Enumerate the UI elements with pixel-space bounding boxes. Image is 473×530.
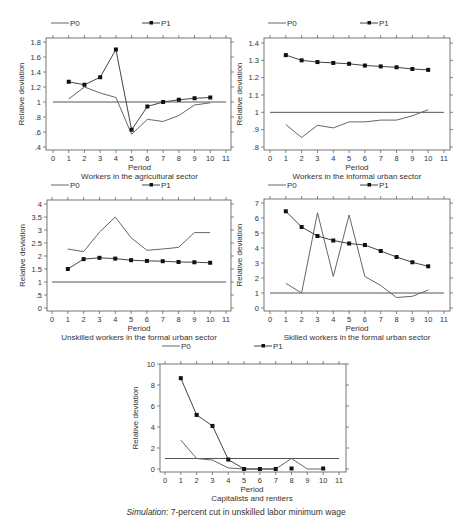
x-tick-label: 3 [210, 476, 214, 485]
plot-frame [160, 364, 346, 472]
legend: P0P1 [51, 19, 171, 28]
y-tick-label: 2 [151, 444, 155, 453]
data-point [179, 376, 183, 380]
x-tick-label: 2 [300, 154, 304, 163]
y-axis-title: Relative deviation [17, 62, 26, 125]
data-point [145, 259, 149, 263]
x-tick-label: 5 [130, 154, 134, 163]
x-tick-label: 11 [440, 315, 448, 324]
data-point [192, 260, 196, 264]
x-tick-label: 1 [67, 154, 71, 163]
figure-caption: Simulation: 7-percent cut in unskilled l… [126, 507, 345, 517]
y-axis-title: Relative deviation [235, 62, 244, 125]
y-tick-label: 1.2 [249, 73, 259, 82]
y-tick-label: .8 [253, 143, 259, 152]
plot-frame [264, 38, 450, 150]
chart-subtitle: Workers in the agricultural sector [81, 172, 198, 181]
data-point [258, 467, 262, 471]
y-tick-label: 3.5 [32, 213, 42, 222]
x-tick-label: 6 [363, 154, 367, 163]
y-tick-label: 1.1 [249, 91, 259, 100]
data-point [161, 100, 165, 104]
y-tick-label: 5 [255, 229, 259, 238]
y-tick-label: .5 [36, 291, 42, 300]
x-tick-label: 3 [315, 154, 319, 163]
x-tick-label: 4 [331, 154, 335, 163]
plot-frame [264, 199, 450, 311]
caption-italic: Simulation [126, 507, 166, 517]
data-point [208, 261, 212, 265]
legend-p0-label: P0 [287, 19, 297, 28]
x-tick-label: 7 [161, 154, 165, 163]
chart-subtitle: Skilled workers in the formal urban sect… [284, 333, 431, 342]
legend-p1-marker-icon [150, 183, 154, 187]
data-point [315, 60, 319, 64]
legend-p1-marker-icon [368, 21, 372, 25]
series-p1 [67, 48, 213, 132]
x-axis: 01234567891011 [51, 35, 230, 163]
series-p0 [181, 440, 323, 469]
x-tick-label: 6 [145, 154, 149, 163]
series-line [68, 217, 210, 252]
y-tick-label: 1.2 [31, 83, 41, 92]
y-tick-label: 8 [151, 381, 155, 390]
chart-subtitle: Capitalists and rentiers [211, 494, 292, 503]
data-point [379, 249, 383, 253]
data-point [426, 68, 430, 72]
x-tick-label: 9 [192, 154, 196, 163]
x-tick-label: 10 [424, 315, 432, 324]
y-tick-label: 6 [151, 402, 155, 411]
y-tick-label: 1.4 [249, 39, 259, 48]
x-tick-label: 7 [161, 315, 165, 324]
x-tick-label: 8 [394, 315, 398, 324]
data-point [395, 255, 399, 259]
series-line [286, 55, 428, 70]
x-tick-label: 11 [222, 154, 230, 163]
y-tick-label: 0 [151, 465, 155, 474]
x-tick-label: 4 [113, 315, 117, 324]
x-tick-label: 7 [274, 476, 278, 485]
x-tick-label: 10 [319, 476, 327, 485]
data-point [284, 209, 288, 213]
series-line [69, 50, 211, 130]
y-tick-label: 10 [147, 360, 155, 369]
y-tick-label: 2 [38, 252, 42, 261]
chart-skilled-formal: P0P101234567891011PeriodSkilled workers … [235, 181, 453, 342]
legend: P0P1 [268, 19, 389, 28]
x-tick-label: 7 [379, 154, 383, 163]
x-tick-label: 8 [289, 476, 293, 485]
x-tick-label: 0 [268, 315, 272, 324]
series-line [181, 378, 276, 469]
x-tick-label: 10 [424, 154, 432, 163]
x-axis-title: Period [128, 163, 151, 172]
data-point [347, 242, 351, 246]
y-tick-label: 1.4 [31, 68, 41, 77]
y-tick-label: .9 [253, 125, 259, 134]
y-tick-label: 1.6 [31, 53, 41, 62]
x-axis: 01234567891011 [268, 196, 448, 324]
legend-p0-label: P0 [70, 181, 80, 190]
x-tick-label: 2 [300, 315, 304, 324]
data-point [300, 225, 304, 229]
x-tick-label: 6 [258, 476, 262, 485]
legend-p1-label: P1 [161, 181, 171, 190]
data-point [290, 466, 294, 470]
series-line [69, 87, 211, 134]
y-tick-label: 2 [255, 274, 259, 283]
x-tick-label: 11 [222, 315, 230, 324]
y-tick-label: 1.8 [31, 38, 41, 47]
x-tick-label: 5 [347, 315, 351, 324]
x-tick-label: 2 [195, 476, 199, 485]
series-p0 [68, 217, 210, 252]
x-tick-label: 9 [410, 154, 414, 163]
series-p0 [286, 110, 428, 138]
y-tick-label: 1 [255, 289, 259, 298]
x-tick-label: 3 [315, 315, 319, 324]
chart-capitalists: P0P101234567891011PeriodCapitalists and … [131, 342, 349, 503]
data-point [210, 424, 214, 428]
x-tick-label: 2 [82, 315, 86, 324]
series-p1 [66, 256, 212, 271]
x-tick-label: 7 [379, 315, 383, 324]
x-tick-label: 9 [305, 476, 309, 485]
x-tick-label: 4 [226, 476, 230, 485]
